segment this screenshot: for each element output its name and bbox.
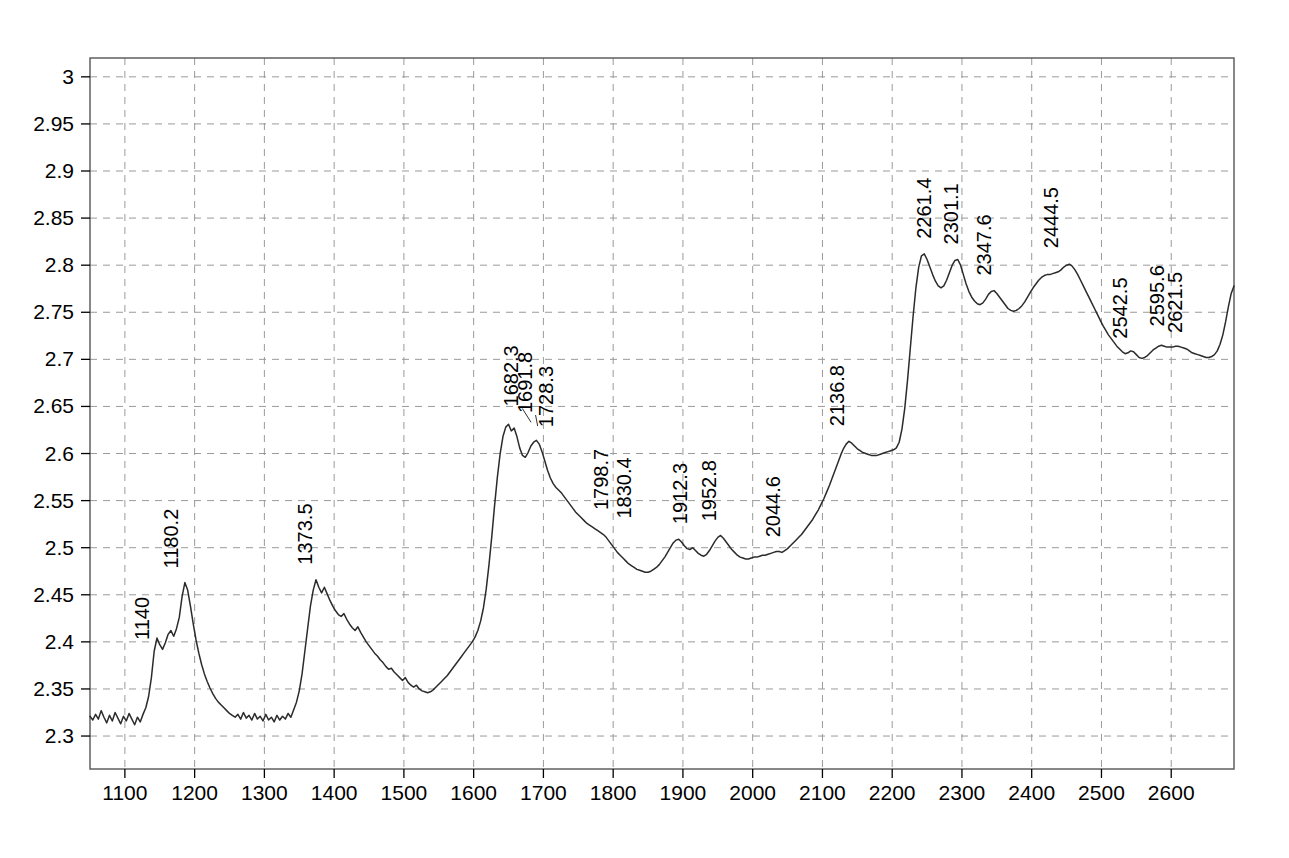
y-tick-label: 2.3: [45, 724, 74, 747]
y-tick-label: 2.9: [45, 159, 74, 182]
x-tick-label: 1600: [450, 781, 497, 804]
peak-label: 1373.5: [294, 503, 316, 564]
y-tick-label: 2.65: [33, 394, 74, 417]
peak-label: 1830.4: [613, 457, 635, 518]
x-tick-label: 1200: [171, 781, 218, 804]
x-tick-label: 1900: [660, 781, 707, 804]
spectrum-chart: 1100120013001400150016001700180019002000…: [0, 0, 1289, 858]
x-tick-label: 1300: [241, 781, 288, 804]
peak-label: 2301.1: [940, 183, 962, 244]
peak-label: 2621.5: [1164, 272, 1186, 333]
peak-label: 1912.3: [669, 463, 691, 524]
y-tick-label: 2.7: [45, 347, 74, 370]
y-tick-label: 2.85: [33, 206, 74, 229]
peak-label: 1180.2: [160, 509, 182, 569]
y-tick-label: 2.8: [45, 253, 74, 276]
x-tick-label: 2300: [939, 781, 986, 804]
x-tick-label: 2200: [869, 781, 916, 804]
peak-label: 2044.6: [762, 476, 784, 537]
x-tick-label: 1800: [590, 781, 637, 804]
x-tick-label: 1100: [102, 781, 147, 804]
x-tick-label: 2500: [1078, 781, 1125, 804]
x-tick-label: 1500: [381, 781, 428, 804]
y-tick-label: 3: [62, 65, 74, 88]
y-tick-label: 2.5: [45, 536, 74, 559]
plot-background: [0, 0, 1289, 858]
peak-label: 2542.5: [1109, 277, 1131, 338]
x-tick-label: 2600: [1148, 781, 1195, 804]
y-tick-label: 2.75: [33, 300, 74, 323]
y-tick-label: 2.6: [45, 442, 74, 465]
x-tick-label: 2000: [729, 781, 776, 804]
x-tick-label: 2400: [1008, 781, 1055, 804]
y-tick-label: 2.4: [45, 630, 75, 653]
peak-label: 2347.6: [973, 214, 995, 275]
peak-label: 1952.8: [698, 460, 720, 521]
x-tick-label: 2100: [799, 781, 846, 804]
y-tick-label: 2.55: [33, 489, 74, 512]
peak-label: 1140: [131, 597, 153, 640]
x-tick-label: 1400: [311, 781, 358, 804]
x-tick-label: 1700: [520, 781, 567, 804]
peak-label: 1798.7: [590, 449, 612, 510]
y-tick-label: 2.35: [33, 677, 74, 700]
spectrum-plot-svg: 1100120013001400150016001700180019002000…: [0, 0, 1289, 858]
peak-label: 1691.8: [514, 352, 536, 413]
y-tick-label: 2.45: [33, 583, 74, 606]
peak-label: 2136.8: [826, 365, 848, 426]
peak-label: 1728.3: [535, 366, 557, 427]
peak-label: 2261.4: [913, 178, 935, 239]
peak-label: 2444.5: [1040, 187, 1062, 248]
y-tick-label: 2.95: [33, 112, 74, 135]
